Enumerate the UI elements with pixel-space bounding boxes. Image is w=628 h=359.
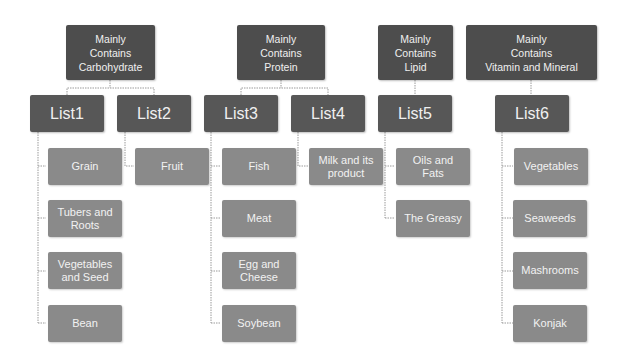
item-milk-product: Milk and its product <box>309 148 383 185</box>
category-line: Carbohydrate <box>79 60 143 74</box>
item-fish: Fish <box>222 148 296 185</box>
category-line: Contains <box>260 46 301 60</box>
item-tubers-roots: Tubers and Roots <box>48 200 122 237</box>
category-line: Mainly <box>79 32 143 46</box>
item-vegetables-seed: Vegetables and Seed <box>48 252 122 289</box>
item-meat: Meat <box>222 200 296 237</box>
category-line: Lipid <box>395 60 436 74</box>
category-line: Mainly <box>485 32 578 46</box>
item-soybean: Soybean <box>222 305 296 342</box>
category-line: Protein <box>260 60 301 74</box>
item-vegetables: Vegetables <box>514 148 588 185</box>
item-oils-fats: Oils and Fats <box>396 148 470 185</box>
list-6: List6 <box>495 95 569 132</box>
item-fruit: Fruit <box>135 148 209 185</box>
category-line: Contains <box>79 46 143 60</box>
item-the-greasy: The Greasy <box>396 200 470 237</box>
item-grain: Grain <box>48 148 122 185</box>
category-line: Mainly <box>395 32 436 46</box>
item-egg-cheese: Egg and Cheese <box>222 252 296 289</box>
item-mashrooms: Mashrooms <box>513 252 587 289</box>
category-line: Contains <box>485 46 578 60</box>
category-lipid: MainlyContainsLipid <box>378 25 453 80</box>
item-seaweeds: Seaweeds <box>513 200 587 237</box>
list-4: List4 <box>291 95 365 132</box>
list-1: List1 <box>30 95 104 132</box>
category-carbohydrate: MainlyContainsCarbohydrate <box>66 25 155 80</box>
list-5: List5 <box>378 95 452 132</box>
list-2: List2 <box>117 95 191 132</box>
category-protein: MainlyContainsProtein <box>237 25 325 80</box>
list-3: List3 <box>204 95 278 132</box>
category-line: Vitamin and Mineral <box>485 60 578 74</box>
category-vitamin-mineral: MainlyContainsVitamin and Mineral <box>466 25 597 80</box>
item-bean: Bean <box>48 305 122 342</box>
category-line: Mainly <box>260 32 301 46</box>
item-konjak: Konjak <box>513 305 587 342</box>
category-line: Contains <box>395 46 436 60</box>
